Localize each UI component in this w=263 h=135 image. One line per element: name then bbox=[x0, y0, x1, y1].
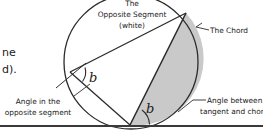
label-angle-tangent-chord-line2: tangent and chord bbox=[200, 107, 263, 116]
label-the-chord: The Chord bbox=[209, 26, 248, 35]
label-angle-opposite-segment-line1: Angle in the bbox=[16, 97, 61, 106]
label-opposite-segment-line1: The bbox=[124, 0, 139, 8]
angle-marker-upper-b: b bbox=[89, 70, 97, 85]
label-angle-opposite-segment-line2: opposite segment bbox=[5, 108, 72, 117]
label-angle-tangent-chord-line1: Angle between bbox=[207, 96, 263, 105]
cropped-body-text-line1: ne bbox=[2, 46, 16, 59]
cropped-body-text-line2: d). bbox=[2, 63, 17, 76]
label-opposite-segment-line3: (white) bbox=[119, 21, 145, 30]
alternate-segment-diagram: The Opposite Segment (white) The Chord A… bbox=[0, 0, 263, 135]
angle-marker-lower-b: b bbox=[146, 101, 154, 116]
label-opposite-segment-line2: Opposite Segment bbox=[98, 10, 167, 19]
